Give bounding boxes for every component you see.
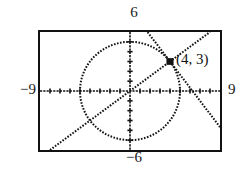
y-max-label: 6 <box>0 5 252 20</box>
line-curves <box>50 32 220 150</box>
x-min-label: −9 <box>4 82 36 97</box>
calculator-screen <box>38 30 222 152</box>
graphing-calculator-figure: 6 −6 −9 9 (4, 3) <box>0 0 252 172</box>
plot-canvas <box>40 32 220 150</box>
intersection-point-marker <box>167 58 173 64</box>
x-max-label: 9 <box>228 82 250 97</box>
intersection-point-label: (4, 3) <box>176 52 209 67</box>
y-min-label: −6 <box>0 150 252 165</box>
